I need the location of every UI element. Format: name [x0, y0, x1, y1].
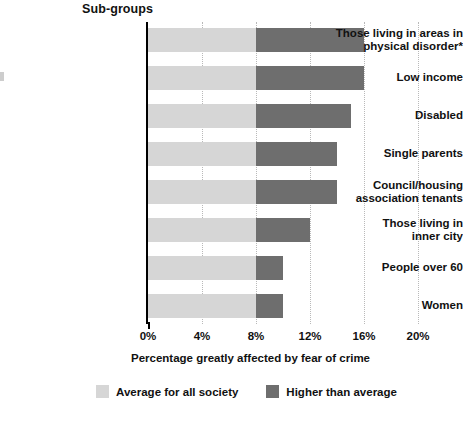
category-label-line: Single parents — [384, 147, 463, 159]
bar-row — [148, 104, 351, 128]
x-tick-label: 4% — [172, 330, 232, 342]
bar-segment-average — [148, 294, 256, 318]
category-label-line: Those living in — [382, 217, 463, 229]
x-tick-mark-8 — [256, 322, 258, 329]
x-tick-label: 0% — [118, 330, 178, 342]
bar-segment-average — [148, 256, 256, 280]
bar-segment-higher — [256, 256, 283, 280]
x-tick-mark-12 — [310, 322, 312, 329]
legend-item: Higher than average — [266, 385, 397, 398]
x-tick-label: 16% — [334, 330, 394, 342]
legend-item: Average for all society — [96, 385, 238, 398]
bar-row — [148, 256, 283, 280]
category-label: Those living ininner city — [325, 217, 463, 244]
chart-legend: Average for all societyHigher than avera… — [0, 385, 463, 398]
legend-swatch-average — [96, 385, 109, 398]
bar-chart: Sub-groups Those living in areas inphysi… — [0, 0, 463, 422]
bar-segment-higher — [256, 218, 310, 242]
x-axis-title: Percentage greatly affected by fear of c… — [0, 352, 463, 364]
gridline-20 — [418, 22, 419, 324]
bar-segment-average — [148, 66, 256, 90]
category-label-line: Those living in areas in — [336, 27, 463, 39]
category-label-line: Disabled — [415, 109, 463, 121]
x-tick-label: 12% — [280, 330, 340, 342]
x-tick-mark-20 — [418, 322, 420, 329]
bar-row — [148, 180, 337, 204]
category-label: Low income — [325, 71, 463, 85]
x-tick-label: 8% — [226, 330, 286, 342]
category-label: Single parents — [325, 147, 463, 161]
x-tick-mark-16 — [364, 322, 366, 329]
legend-swatch-higher — [266, 385, 279, 398]
bar-row — [148, 218, 310, 242]
legend-label: Higher than average — [286, 386, 397, 398]
bar-segment-average — [148, 104, 256, 128]
bar-row — [148, 142, 337, 166]
bar-segment-higher — [256, 294, 283, 318]
bar-segment-average — [148, 180, 256, 204]
category-label-line: Women — [422, 299, 463, 311]
x-tick-mark-4 — [202, 322, 204, 329]
chart-title: Sub-groups — [82, 2, 153, 16]
x-tick-label: 20% — [388, 330, 448, 342]
legend-label: Average for all society — [116, 386, 238, 398]
bar-segment-average — [148, 142, 256, 166]
category-label-line: inner city — [412, 230, 463, 242]
x-tick-mark-0 — [148, 322, 150, 329]
bar-segment-average — [148, 218, 256, 242]
category-label: Disabled — [325, 109, 463, 123]
category-label-line: Low income — [397, 71, 463, 83]
category-label: People over 60 — [325, 261, 463, 275]
category-label-line: People over 60 — [382, 261, 463, 273]
gridline-16 — [364, 22, 365, 324]
category-label: Those living in areas inphysical disorde… — [325, 27, 463, 54]
page-edge-artifact — [0, 72, 4, 81]
bar-segment-average — [148, 28, 256, 52]
category-label-line: Council/housing — [373, 179, 463, 191]
category-label: Women — [325, 299, 463, 313]
bar-row — [148, 294, 283, 318]
category-label: Council/housingassociation tenants — [325, 179, 463, 206]
category-label-line: physical disorder* — [363, 40, 463, 52]
category-label-line: association tenants — [356, 192, 463, 204]
